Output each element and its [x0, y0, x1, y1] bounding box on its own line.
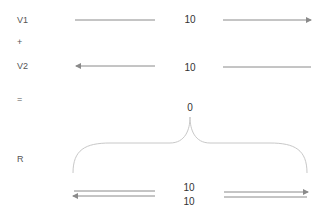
vector-diagram — [0, 0, 326, 219]
curly-brace — [73, 117, 307, 173]
